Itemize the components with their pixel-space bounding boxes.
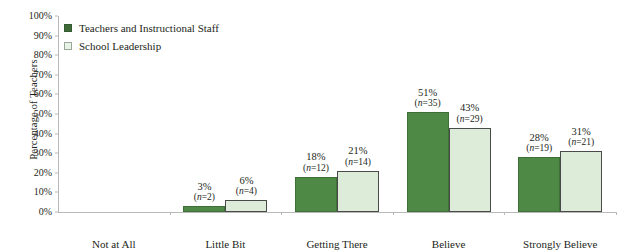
bar-count-label: (n=29) — [457, 114, 483, 125]
bar-group: 51%(n=35)43%(n=29) — [393, 16, 505, 212]
bar[interactable] — [449, 128, 491, 212]
y-axis-tick-label: 50% — [6, 109, 58, 119]
y-axis-tick-label: 70% — [6, 70, 58, 80]
bar-group: 18%(n=12)21%(n=14) — [281, 16, 393, 212]
bar-slot: 18%(n=12) — [295, 16, 337, 212]
bar-count-label: (n=21) — [568, 137, 594, 148]
y-axis-tick-label: 80% — [6, 50, 58, 60]
bar[interactable] — [225, 200, 267, 212]
y-axis-tick-label: 30% — [6, 148, 58, 158]
bar-slot — [114, 16, 156, 212]
bar-slot: 43%(n=29) — [449, 16, 491, 212]
bar-group — [58, 16, 170, 212]
bar-count-label: (n=19) — [526, 143, 552, 154]
x-axis-tick-mark — [393, 212, 394, 215]
bar-slot: 21%(n=14) — [337, 16, 379, 212]
x-axis-tick-label: Little Bit — [205, 238, 245, 250]
y-axis-tick-label: 60% — [6, 89, 58, 99]
bar-count-label: (n=4) — [236, 186, 257, 197]
plot-area: 0%10%20%30%40%50%60%70%80%90%100% 3%(n=2… — [58, 16, 616, 212]
bar-slot: 6%(n=4) — [225, 16, 267, 212]
x-axis-line — [58, 212, 616, 213]
bar[interactable] — [407, 112, 449, 212]
bar-count-label: (n=35) — [415, 98, 441, 109]
y-axis-tick-label: 20% — [6, 168, 58, 178]
bar-count-label: (n=2) — [194, 192, 215, 203]
y-axis-tick-label: 40% — [6, 129, 58, 139]
x-axis-tick-label: Getting There — [306, 238, 367, 250]
bar-slot: 51%(n=35) — [407, 16, 449, 212]
bar-slot — [72, 16, 114, 212]
y-axis-tick-label: 0% — [6, 207, 58, 217]
y-axis-tick-label: 90% — [6, 31, 58, 41]
bar-value-label: 43%(n=29) — [457, 102, 483, 125]
bar-group: 3%(n=2)6%(n=4) — [170, 16, 282, 212]
x-axis-tick-label: Strongly Believe — [523, 238, 597, 250]
bar-group: 28%(n=19)31%(n=21) — [504, 16, 616, 212]
bar-value-label: 28%(n=19) — [526, 132, 552, 155]
bar-value-label: 21%(n=14) — [345, 145, 371, 168]
x-axis-tick-mark — [281, 212, 282, 215]
bar[interactable] — [518, 157, 560, 212]
bar-value-label: 31%(n=21) — [568, 126, 594, 149]
bar-slot: 31%(n=21) — [560, 16, 602, 212]
bar-value-label: 18%(n=12) — [303, 151, 329, 174]
bar-chart: Percentage of Teachers Teachers and Inst… — [0, 0, 623, 250]
y-axis-tick-label: 100% — [6, 11, 58, 21]
bar-slot: 28%(n=19) — [518, 16, 560, 212]
y-axis-tick-label: 10% — [6, 187, 58, 197]
bar[interactable] — [337, 171, 379, 212]
bar-value-label: 3%(n=2) — [194, 181, 215, 204]
bar[interactable] — [183, 206, 225, 212]
bar[interactable] — [560, 151, 602, 212]
x-axis-tick-mark — [170, 212, 171, 215]
bar-value-label: 6%(n=4) — [236, 175, 257, 198]
bar-value-label: 51%(n=35) — [415, 87, 441, 110]
bar-count-label: (n=14) — [345, 157, 371, 168]
x-axis-tick-mark — [616, 212, 617, 215]
bar[interactable] — [295, 177, 337, 212]
x-axis-tick-mark — [504, 212, 505, 215]
bar-count-label: (n=12) — [303, 163, 329, 174]
x-axis-tick-label: Believe — [432, 238, 466, 250]
bar-slot: 3%(n=2) — [183, 16, 225, 212]
x-axis-tick-label: Not at All — [92, 238, 135, 250]
